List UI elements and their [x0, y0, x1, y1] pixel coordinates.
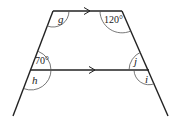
angle-h-arc [24, 70, 51, 90]
right-transversal [122, 11, 168, 116]
label-g: g [58, 13, 64, 25]
label-i: i [145, 73, 148, 85]
label-h: h [32, 74, 38, 86]
parallel-lines-diagram: g 120° 70° h j i [0, 0, 175, 129]
label-j: j [132, 55, 137, 67]
label-70: 70° [35, 55, 49, 66]
label-120: 120° [104, 14, 123, 25]
